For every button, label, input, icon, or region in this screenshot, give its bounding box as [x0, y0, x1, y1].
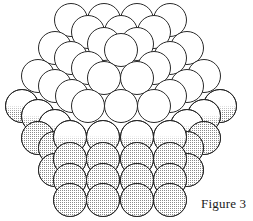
sphere — [154, 184, 187, 217]
figure-caption: Figure 3 — [201, 196, 246, 212]
sphere — [87, 184, 120, 217]
sphere-packing-figure — [0, 0, 253, 221]
sphere — [105, 34, 138, 67]
sphere — [72, 90, 105, 123]
sphere — [138, 90, 171, 123]
sphere — [54, 184, 87, 217]
sphere-stack — [6, 4, 237, 217]
sphere — [121, 62, 154, 95]
sphere — [88, 62, 121, 95]
sphere — [105, 90, 138, 123]
sphere — [121, 184, 154, 217]
